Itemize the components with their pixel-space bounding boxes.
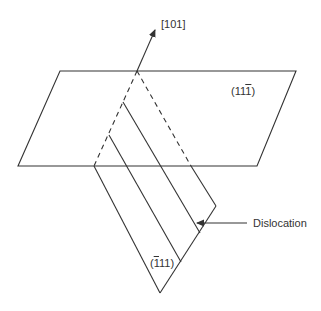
direction-arrow-101 xyxy=(137,30,155,71)
dislocation-label: Dislocation xyxy=(253,218,307,229)
plane-inclined-post: 11) xyxy=(159,257,174,269)
plane-top-pre: (11 xyxy=(231,85,245,97)
direction-label: [101] xyxy=(161,19,185,30)
plane-top-label: (111) xyxy=(231,86,255,97)
hidden-edges xyxy=(94,71,191,166)
slip-lines xyxy=(109,102,200,262)
plane-inclined-label: (111) xyxy=(150,258,174,269)
plane-top-post: ) xyxy=(251,85,255,97)
